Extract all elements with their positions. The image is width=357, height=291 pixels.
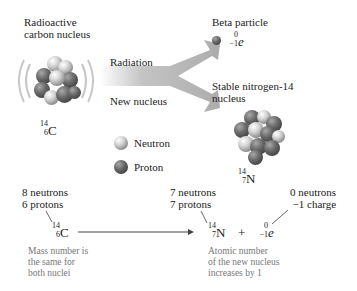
- eq-carbon-symbol: C: [60, 225, 69, 240]
- nitrogen-composition: 7 neutrons 7 protons: [170, 186, 216, 210]
- beta-charge-number: −1: [229, 40, 238, 48]
- eq-nitrogen-symbol: N: [216, 225, 225, 240]
- beta-symbol: e: [238, 34, 244, 49]
- mass-note-line1: Mass number is: [28, 246, 88, 257]
- electron-composition: 0 neutrons −1 charge: [290, 186, 336, 210]
- eq-nitrogen-mass: 14: [208, 222, 216, 230]
- eq-carbon-atomic: 6: [56, 231, 60, 239]
- eq-nitrogen-atomic: 7: [212, 231, 216, 239]
- carbon-atomic-number: 6: [44, 129, 48, 137]
- nitrogen-mass-number: 14: [238, 168, 246, 176]
- carbon-neutrons-text: 8 neutrons: [22, 186, 68, 198]
- carbon-composition: 8 neutrons 6 protons: [22, 186, 68, 210]
- product-title-line1: Stable nitrogen-14: [212, 80, 294, 92]
- legend-proton-label: Proton: [134, 161, 163, 173]
- carbon-protons-text: 6 protons: [22, 198, 68, 210]
- carbon-mass-number: 14: [40, 120, 48, 128]
- electron-neutrons-text: 0 neutrons: [290, 186, 336, 198]
- atomic-note-line3: increases by 1: [208, 268, 280, 279]
- atomic-note-line1: Atomic number: [208, 246, 280, 257]
- nitrogen-protons-text: 7 protons: [170, 198, 216, 210]
- reaction-arrow-icon: [76, 226, 196, 238]
- radiation-label: Radiation: [110, 56, 153, 68]
- eq-carbon-mass: 14: [52, 222, 60, 230]
- product-title: Stable nitrogen-14 nucleus: [212, 80, 294, 104]
- atomic-number-note: Atomic number of the new nucleus increas…: [208, 246, 280, 279]
- plus-sign: +: [238, 226, 245, 239]
- carbon-symbol: C: [48, 123, 57, 138]
- product-title-line2: nucleus: [212, 92, 294, 104]
- eq-electron-charge: −1: [259, 231, 268, 239]
- atomic-note-line2: of the new nucleus: [208, 257, 280, 268]
- carbon-nucleus-illustration: [12, 50, 100, 112]
- legend-neutron-label: Neutron: [134, 137, 170, 149]
- mass-note-line3: both nuclei: [28, 268, 88, 279]
- nitrogen-neutrons-text: 7 neutrons: [170, 186, 216, 198]
- new-nucleus-label: New nucleus: [110, 95, 167, 107]
- reactant-title-line1: Radioactive: [24, 16, 90, 28]
- proton-sphere-icon: [114, 160, 128, 174]
- neutron-sphere-icon: [114, 136, 128, 150]
- nitrogen-atomic-number: 7: [242, 177, 246, 185]
- mass-number-note: Mass number is the same for both nuclei: [28, 246, 88, 279]
- beta-particle-title: Beta particle: [212, 16, 268, 28]
- electron-sphere-icon: [212, 36, 221, 45]
- eq-electron-mass: 0: [264, 222, 268, 230]
- nitrogen-symbol: N: [246, 171, 255, 186]
- eq-electron-symbol: e: [268, 225, 274, 240]
- nitrogen-nucleus-illustration: [232, 108, 288, 168]
- beta-mass-number: 0: [234, 31, 238, 39]
- reactant-title: Radioactive carbon nucleus: [24, 16, 90, 40]
- electron-charge-text: −1 charge: [290, 198, 336, 210]
- reactant-title-line2: carbon nucleus: [24, 28, 90, 40]
- mass-note-line2: the same for: [28, 257, 88, 268]
